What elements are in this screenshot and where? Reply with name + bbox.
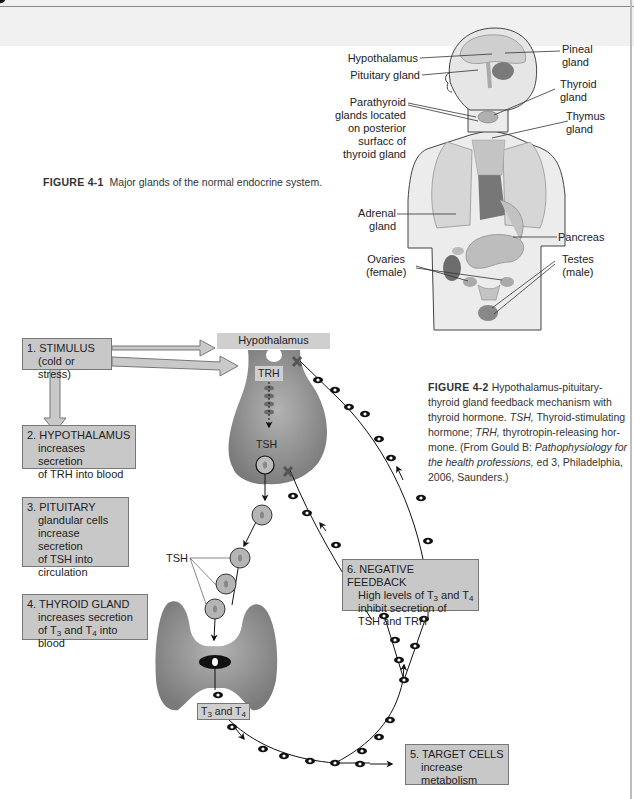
caption-text: 2006, Saunders.) bbox=[428, 471, 509, 483]
label-line: glands located bbox=[300, 109, 406, 122]
step-title: 6. NEGATIVE FEEDBACK bbox=[347, 563, 414, 588]
text: and T bbox=[438, 589, 469, 601]
label-line: Thymus bbox=[566, 110, 605, 123]
label-pineal-gland: Pineal gland bbox=[562, 43, 593, 69]
label-line: (female) bbox=[366, 266, 406, 279]
step-title: 4. THYROID GLAND bbox=[27, 598, 130, 610]
label-thymus-gland: Thymus gland bbox=[566, 110, 605, 136]
label-line: Pineal bbox=[562, 43, 593, 56]
label-line: Parathyroid bbox=[300, 96, 406, 109]
label-pancreas: Pancreas bbox=[558, 231, 604, 244]
step-6-negative-feedback: 6. NEGATIVE FEEDBACK High levels of T3 a… bbox=[342, 559, 479, 611]
caption-abbr: TSH, bbox=[510, 411, 534, 423]
step-1-stimulus: 1. STIMULUS (cold or stress) bbox=[22, 338, 112, 370]
step-line: increase bbox=[410, 761, 504, 774]
step-line: increases secretion bbox=[27, 611, 143, 624]
label-testes: Testes (male) bbox=[562, 253, 594, 279]
label-parathyroid: Parathyroid glands located on posterior … bbox=[300, 96, 406, 161]
caption-text: thyroid hormone. bbox=[428, 411, 507, 423]
step-title: 2. HYPOTHALAMUS bbox=[27, 429, 130, 441]
tag-t3-t4: T3 and T4 bbox=[197, 703, 250, 720]
label-adrenal-gland: Adrenal gland bbox=[330, 207, 396, 233]
step-line: circulation bbox=[27, 566, 124, 579]
body-illustration bbox=[408, 28, 565, 330]
step-line: inhibit secretion of bbox=[347, 602, 474, 615]
step-5-target-cells: 5. TARGET CELLS increase metabolism bbox=[405, 744, 509, 785]
text: High levels of T bbox=[358, 589, 434, 601]
step-line: increase secretion bbox=[27, 527, 124, 553]
step-2-hypothalamus: 2. HYPOTHALAMUS increases secretion of T… bbox=[22, 425, 136, 469]
label-thyroid-gland: Thyroid gland bbox=[560, 78, 597, 104]
caption-text: Thyroid-stimulating bbox=[536, 411, 625, 423]
label-line: gland bbox=[562, 56, 593, 69]
label-line: gland bbox=[560, 91, 597, 104]
caption-source-title: the health professions, bbox=[428, 456, 534, 468]
label-line: Ovaries bbox=[366, 253, 406, 266]
subscript: 4 bbox=[469, 594, 473, 603]
tag-tsh-pituitary: TSH bbox=[253, 437, 280, 452]
step-title: 5. TARGET CELLS bbox=[410, 748, 504, 760]
step-line: metabolism bbox=[410, 774, 504, 787]
label-pituitary-gland: Pituitary gland bbox=[320, 69, 420, 82]
text: and T bbox=[61, 624, 92, 636]
tag-trh: TRH bbox=[255, 366, 283, 381]
caption-text: Hypothalamus-pituitary- bbox=[492, 381, 603, 393]
label-ovaries: Ovaries (female) bbox=[366, 253, 406, 279]
label-line: (male) bbox=[562, 266, 594, 279]
text: of T bbox=[38, 624, 57, 636]
caption-text: mone. (From Gould B: bbox=[428, 441, 532, 453]
caption-text: thyrotropin-releasing hor- bbox=[503, 426, 620, 438]
tag-hypothalamus: Hypothalamus bbox=[217, 333, 330, 349]
step-line: TSH and TRH bbox=[347, 615, 474, 628]
label-line: Testes bbox=[562, 253, 594, 266]
step-3-pituitary: 3. PITUITARY glandular cells increase se… bbox=[22, 497, 129, 567]
caption-source-title: Pathophysiology for bbox=[535, 441, 627, 453]
hormone-beads bbox=[0, 0, 5, 3]
step-line: increases secretion bbox=[27, 442, 131, 468]
caption-label: FIGURE 4-1 bbox=[43, 176, 104, 188]
label-line: Thyroid bbox=[560, 78, 597, 91]
subscript: 4 bbox=[241, 710, 245, 719]
caption-text: thyroid gland feedback mechanism with bbox=[428, 396, 612, 408]
step-title: 1. STIMULUS bbox=[27, 342, 95, 354]
step-line: High levels of T3 and T4 bbox=[347, 589, 474, 602]
caption-label: FIGURE 4-2 bbox=[428, 381, 489, 393]
step-line: of TSH into bbox=[27, 553, 124, 566]
step-line: (cold or stress) bbox=[27, 355, 107, 381]
label-line: thyroid gland bbox=[300, 148, 406, 161]
label-line: Adrenal bbox=[330, 207, 396, 220]
step-title: 3. PITUITARY bbox=[27, 501, 96, 513]
caption-text: ed 3, Philadelphia, bbox=[537, 456, 623, 468]
step-line: of T3 and T4 into blood bbox=[27, 624, 143, 650]
figure-4-1-caption: FIGURE 4-1 Major glands of the normal en… bbox=[43, 175, 322, 190]
label-line: surfacc of bbox=[300, 135, 406, 148]
label-line: on posterior bbox=[300, 122, 406, 135]
step-4-thyroid-gland: 4. THYROID GLAND increases secretion of … bbox=[22, 594, 148, 640]
label-hypothalamus: Hypothalamus bbox=[330, 52, 418, 65]
figure-4-2-caption: FIGURE 4-2 Hypothalamus-pituitary- thyro… bbox=[428, 380, 628, 485]
step-line: glandular cells bbox=[27, 514, 124, 527]
caption-text: Major glands of the normal endocrine sys… bbox=[110, 176, 322, 188]
label-line: gland bbox=[330, 220, 396, 233]
label-tsh: TSH bbox=[166, 552, 188, 565]
label-line: gland bbox=[566, 123, 605, 136]
step-line: of TRH into blood bbox=[27, 468, 131, 481]
caption-text: hormone; bbox=[428, 426, 472, 438]
caption-abbr: TRH, bbox=[475, 426, 500, 438]
tag-text: and T bbox=[212, 705, 242, 717]
